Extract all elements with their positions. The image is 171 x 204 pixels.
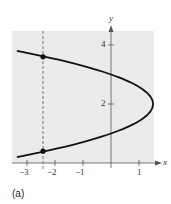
y-tick-label-4: 4 xyxy=(101,39,106,49)
y-axis-arrow-icon xyxy=(109,25,114,32)
x-tick-label-neg3: −3 xyxy=(19,167,29,177)
x-axis-label: x xyxy=(163,157,167,167)
intersection-point-upper xyxy=(40,54,45,59)
x-tick-label-neg1: −1 xyxy=(75,167,85,177)
x-tick-label-neg2: −2 xyxy=(47,167,57,177)
y-axis-label: y xyxy=(109,13,113,23)
plot-background xyxy=(12,31,154,163)
intersection-point-lower xyxy=(40,149,45,154)
x-tick-label-1: 1 xyxy=(137,167,142,177)
subfigure-label: (a) xyxy=(12,188,24,199)
y-tick-label-2: 2 xyxy=(101,98,106,108)
x-axis-arrow-icon xyxy=(155,161,162,166)
